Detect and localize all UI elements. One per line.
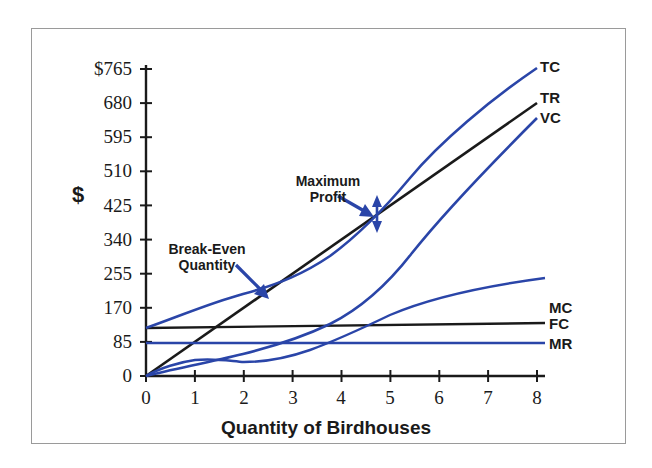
annotation-break-even: Break-Even Quantity <box>152 241 262 273</box>
x-tick-label-0: 0 <box>126 388 166 407</box>
annotation-maximum-profit: Maximum Profit <box>276 173 380 205</box>
x-tick-label-6: 6 <box>419 388 459 407</box>
x-tick-label-7: 7 <box>468 388 508 407</box>
y-tick-label-0: 0 <box>56 366 132 385</box>
curve-label-tc: TC <box>540 59 560 74</box>
chart-figure: $765 680 595 510 425 340 255 170 85 0 0 … <box>0 0 652 468</box>
x-tick-label-4: 4 <box>321 388 361 407</box>
x-tick-label-3: 3 <box>273 388 313 407</box>
y-tick-label-340: 340 <box>56 230 132 249</box>
curve-fc <box>146 323 545 328</box>
y-tick-label-595: 595 <box>56 127 132 146</box>
x-tick-label-5: 5 <box>370 388 410 407</box>
y-tick-label-680: 680 <box>56 93 132 112</box>
x-tick-label-2: 2 <box>224 388 264 407</box>
y-tick-label-510: 510 <box>56 161 132 180</box>
y-tick-label-765: $765 <box>56 59 132 78</box>
x-axis-title: Quantity of Birdhouses <box>0 417 652 439</box>
curve-label-mr: MR <box>549 336 572 351</box>
y-tick-label-85: 85 <box>56 332 132 351</box>
curve-label-tr: TR <box>540 90 560 105</box>
y-tick-label-255: 255 <box>56 264 132 283</box>
x-tick-label-1: 1 <box>175 388 215 407</box>
curve-label-fc: FC <box>549 316 569 331</box>
x-tick-label-8: 8 <box>517 388 557 407</box>
curve-tr <box>146 103 537 376</box>
y-tick-label-425: 425 <box>56 196 132 215</box>
curve-label-mc: MC <box>549 300 572 315</box>
curve-label-vc: VC <box>540 110 561 125</box>
y-tick-label-170: 170 <box>56 298 132 317</box>
y-axis-title: $ <box>72 182 84 208</box>
